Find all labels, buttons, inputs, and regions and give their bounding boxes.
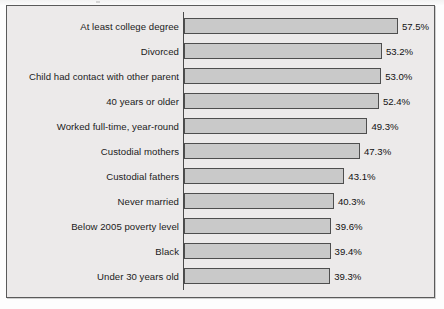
bar-value-label: 39.3%	[334, 270, 361, 281]
category-label: Below 2005 poverty level	[11, 220, 179, 231]
bar-value-label: 39.6%	[335, 220, 362, 231]
chart-page: At least college degree57.5%Divorced53.2…	[0, 0, 444, 309]
bar	[184, 93, 379, 109]
category-label: Black	[11, 245, 179, 256]
category-label: Child had contact with other parent	[11, 70, 179, 81]
chart-row: Under 30 years old39.3%	[7, 263, 434, 288]
bar	[184, 143, 360, 159]
plot-area: At least college degree57.5%Divorced53.2…	[7, 6, 434, 297]
chart-frame: At least college degree57.5%Divorced53.2…	[6, 5, 435, 298]
bar-value-label: 47.3%	[364, 145, 391, 156]
chart-row: 40 years or older52.4%	[7, 88, 434, 113]
category-label: Under 30 years old	[11, 270, 179, 281]
bar-value-label: 57.5%	[402, 20, 429, 31]
bar	[184, 18, 398, 34]
bar	[184, 268, 330, 284]
bar-value-label: 52.4%	[383, 95, 410, 106]
bar	[184, 243, 331, 259]
category-label: 40 years or older	[11, 95, 179, 106]
bar	[184, 168, 344, 184]
bar-value-label: 40.3%	[338, 195, 365, 206]
category-label: At least college degree	[11, 20, 179, 31]
bar	[184, 118, 367, 134]
chart-row: Black39.4%	[7, 238, 434, 263]
chart-row: At least college degree57.5%	[7, 13, 434, 38]
chart-row: Below 2005 poverty level39.6%	[7, 213, 434, 238]
category-label: Never married	[11, 195, 179, 206]
chart-row: Divorced53.2%	[7, 38, 434, 63]
bar	[184, 68, 381, 84]
chart-row: Custodial fathers43.1%	[7, 163, 434, 188]
bar-value-label: 49.3%	[371, 120, 398, 131]
bar	[184, 193, 334, 209]
chart-row: Worked full-time, year-round49.3%	[7, 113, 434, 138]
category-label: Custodial mothers	[11, 145, 179, 156]
category-label: Custodial fathers	[11, 170, 179, 181]
bar-value-label: 53.0%	[385, 70, 412, 81]
bar	[184, 218, 331, 234]
chart-row: Child had contact with other parent53.0%	[7, 63, 434, 88]
category-label: Divorced	[11, 45, 179, 56]
bar-value-label: 39.4%	[335, 245, 362, 256]
bar-value-label: 53.2%	[386, 45, 413, 56]
chart-row: Never married40.3%	[7, 188, 434, 213]
bar	[184, 43, 382, 59]
chart-row: Custodial mothers47.3%	[7, 138, 434, 163]
scan-speck	[96, 1, 100, 3]
bar-value-label: 43.1%	[348, 170, 375, 181]
category-label: Worked full-time, year-round	[11, 120, 179, 131]
